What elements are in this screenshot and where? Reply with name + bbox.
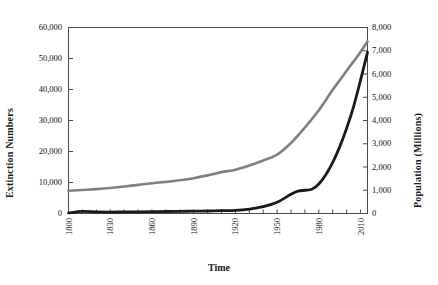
chart-figure: Extinction Numbers Population (Millions)…: [0, 0, 438, 285]
plot-frame: [69, 28, 368, 214]
plot-area: [0, 0, 438, 285]
